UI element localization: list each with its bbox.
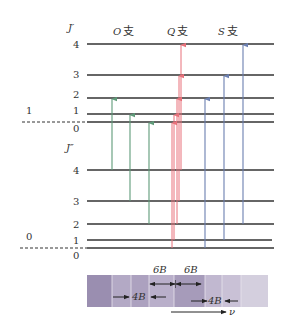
svg-text:1: 1 (73, 235, 79, 246)
svg-text:O: O (113, 26, 121, 37)
lower-levels (20, 170, 274, 248)
spectrum-strip: 6B 6B 4B 4B (87, 264, 268, 307)
branch-header-o: O 支 (113, 25, 134, 38)
vib-label-lower: 0 (26, 231, 32, 242)
svg-text:4: 4 (73, 39, 79, 50)
svg-text:Q: Q (167, 26, 175, 37)
svg-text:2: 2 (73, 219, 79, 230)
svg-text:支: 支 (177, 25, 188, 38)
svg-text:2: 2 (73, 89, 79, 100)
svg-text:3: 3 (73, 69, 79, 80)
label-4b-left: 4B (131, 291, 146, 302)
label-4b-right: 4B (207, 295, 222, 306)
label-6b-left: 6B (153, 264, 167, 275)
svg-text:0: 0 (73, 123, 79, 134)
svg-text:3: 3 (73, 196, 79, 207)
svg-text:4: 4 (73, 165, 79, 176)
svg-text:支: 支 (123, 25, 134, 38)
svg-text:1: 1 (73, 105, 79, 116)
svg-text:0: 0 (73, 250, 79, 261)
lower-j-label: J″ (64, 142, 74, 153)
branch-header-q: Q 支 (167, 25, 188, 38)
frequency-label: ν (229, 306, 235, 317)
vib-label-upper: 1 (26, 105, 32, 116)
frequency-axis: ν (171, 306, 235, 317)
label-6b-right: 6B (184, 264, 198, 275)
upper-levels (22, 44, 274, 122)
svg-text:支: 支 (227, 25, 238, 38)
raman-energy-level-diagram: O 支 Q 支 S 支 J′ 4 3 2 1 0 1 J″ 4 3 2 1 0 … (0, 0, 291, 324)
branch-header-s: S 支 (218, 25, 238, 38)
upper-j-label: J′ (66, 22, 75, 33)
svg-text:S: S (218, 26, 225, 37)
o-branch-transitions (112, 99, 149, 224)
